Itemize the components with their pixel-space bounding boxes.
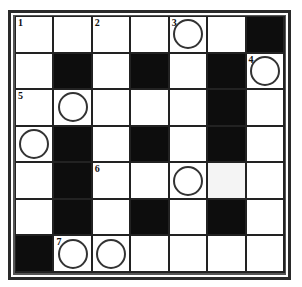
grid-cell[interactable] [93, 236, 131, 273]
grid-cell[interactable] [170, 54, 208, 91]
grid-cell[interactable] [208, 17, 246, 54]
black-square [54, 163, 92, 200]
black-square [208, 127, 246, 164]
grid-cell[interactable] [54, 17, 92, 54]
grid-cell[interactable]: 2 [93, 17, 131, 54]
grid-cell[interactable]: 4 [247, 54, 285, 91]
black-square [54, 54, 92, 91]
grid-cell[interactable] [93, 90, 131, 127]
grid-cell[interactable]: 5 [16, 90, 54, 127]
grid-cell[interactable] [208, 163, 246, 200]
grid-cell[interactable] [93, 54, 131, 91]
grid-cell[interactable] [131, 17, 169, 54]
grid-cell[interactable] [16, 127, 54, 164]
black-square [54, 127, 92, 164]
grid-cell[interactable] [131, 163, 169, 200]
grid-cell[interactable] [170, 163, 208, 200]
grid-cell[interactable] [208, 236, 246, 273]
grid-cell[interactable]: 6 [93, 163, 131, 200]
grid-cell[interactable] [247, 163, 285, 200]
grid-cell[interactable]: 3 [170, 17, 208, 54]
black-square [208, 54, 246, 91]
circle-marker-icon [96, 239, 126, 269]
grid-cell[interactable]: 7 [54, 236, 92, 273]
grid-cell[interactable] [170, 200, 208, 237]
black-square [131, 200, 169, 237]
grid-cell[interactable] [131, 90, 169, 127]
grid-cell[interactable] [247, 236, 285, 273]
black-square [208, 200, 246, 237]
crossword-grid: 1234567 [15, 16, 285, 273]
grid-cell[interactable] [247, 200, 285, 237]
clue-number: 5 [18, 90, 23, 101]
grid-cell[interactable] [247, 90, 285, 127]
grid-cell[interactable] [54, 90, 92, 127]
grid-cell[interactable] [131, 236, 169, 273]
clue-number: 6 [95, 163, 100, 174]
circle-marker-icon [250, 56, 280, 86]
grid-cell[interactable] [16, 200, 54, 237]
black-square [16, 236, 54, 273]
clue-number: 2 [95, 17, 100, 28]
grid-cell[interactable]: 1 [16, 17, 54, 54]
grid-cell[interactable] [16, 54, 54, 91]
black-square [208, 90, 246, 127]
black-square [54, 200, 92, 237]
grid-cell[interactable] [170, 236, 208, 273]
grid-cell[interactable] [93, 200, 131, 237]
grid-cell[interactable] [16, 163, 54, 200]
circle-marker-icon [173, 19, 203, 49]
black-square [131, 54, 169, 91]
clue-number: 1 [18, 17, 23, 28]
grid-cell[interactable] [93, 127, 131, 164]
circle-marker-icon [58, 239, 88, 269]
grid-cell[interactable] [170, 90, 208, 127]
black-square [247, 17, 285, 54]
black-square [131, 127, 169, 164]
circle-marker-icon [173, 166, 203, 196]
circle-marker-icon [19, 129, 49, 159]
grid-cell[interactable] [247, 127, 285, 164]
circle-marker-icon [58, 92, 88, 122]
grid-cell[interactable] [170, 127, 208, 164]
